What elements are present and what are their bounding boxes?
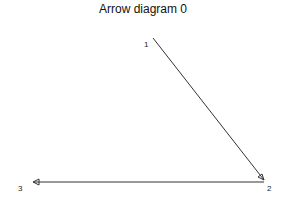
arrowhead-icon	[258, 174, 264, 180]
arrow-diagram	[0, 0, 286, 201]
node-label-1: 1	[144, 40, 148, 49]
node-label-3: 3	[18, 184, 22, 193]
diagram-canvas: Arrow diagram 0 1 2 3	[0, 0, 286, 201]
edge-1-to-2	[153, 38, 264, 180]
node-label-2: 2	[267, 184, 271, 193]
edge-2-to-3	[33, 179, 264, 185]
